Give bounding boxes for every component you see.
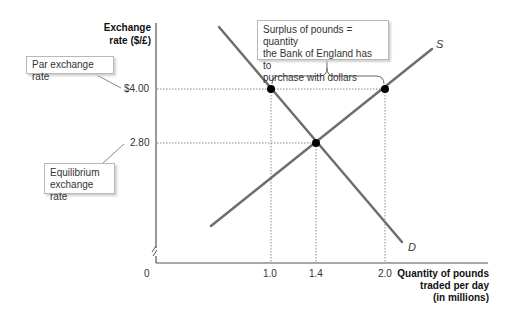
- y-axis-title-line1: Exchange: [103, 21, 151, 34]
- y-axis-title-line2: rate ($/£): [103, 34, 151, 47]
- eq-rate-callout: Equilibrium exchange rate: [44, 163, 115, 194]
- surplus-callout-line2: the Bank of England has to: [263, 48, 383, 72]
- surplus-callout: Surplus of pounds = quantity the Bank of…: [257, 20, 389, 60]
- eq-leader-line: [103, 144, 124, 163]
- x-axis-title-line2: traded per day: [397, 280, 489, 292]
- par-leader-line: [93, 73, 121, 88]
- y-tick-par: $4.00: [124, 83, 149, 94]
- x-axis-title-line1: Quantity of pounds: [397, 268, 489, 280]
- demand-label: D: [408, 241, 416, 253]
- eq-callout-line1: Equilibrium: [50, 167, 109, 179]
- x-axis-title: Quantity of pounds traded per day (in mi…: [397, 268, 489, 304]
- point-demand-at-par: [267, 85, 275, 93]
- point-supply-at-par: [381, 85, 389, 93]
- surplus-callout-line1: Surplus of pounds = quantity: [263, 24, 383, 48]
- point-equilibrium: [312, 139, 320, 147]
- eq-callout-line2: exchange rate: [50, 179, 109, 203]
- x-tick-origin: 0: [144, 268, 150, 279]
- surplus-callout-line3: purchase with dollars: [263, 72, 383, 84]
- y-axis-title: Exchange rate ($/£): [103, 21, 151, 47]
- x-tick-3: 2.0: [378, 268, 392, 279]
- x-tick-2: 1.4: [309, 268, 323, 279]
- y-tick-eq: 2.80: [130, 137, 149, 148]
- supply-label: S: [436, 38, 443, 50]
- chart-canvas: [0, 0, 511, 312]
- x-tick-1: 1.0: [263, 268, 277, 279]
- x-axis-title-line3: (in millions): [397, 292, 489, 304]
- par-rate-callout: Par exchange rate: [26, 56, 114, 74]
